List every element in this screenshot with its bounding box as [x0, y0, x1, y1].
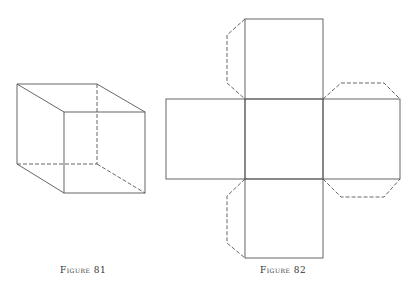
figure-81-caption: Figure 81 — [60, 265, 106, 275]
figure-81-cube — [17, 84, 145, 193]
figure-82-net — [166, 19, 400, 258]
figures-canvas — [0, 0, 417, 286]
figure-82-caption: Figure 82 — [260, 265, 306, 275]
